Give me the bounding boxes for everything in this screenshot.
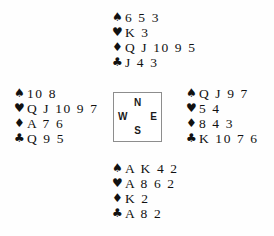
hand-east-clubs-ranks: K 10 7 6: [199, 131, 259, 146]
hand-west-diamonds-row: ♦ A 7 6: [14, 116, 99, 131]
hand-north: ♠ 6 5 3 ♥ K 3 ♦ Q J 10 9 5 ♣ J 4 3: [112, 10, 197, 70]
hand-east-diamonds-row: ♦ 8 4 3: [186, 116, 259, 131]
hand-south-clubs-row: ♣ A 8 2: [112, 206, 179, 221]
hand-south-hearts-row: ♥ A 8 6 2: [112, 176, 179, 191]
hand-west-spades-ranks: 10 8: [27, 86, 57, 101]
hand-north-spades-ranks: 6 5 3: [125, 10, 160, 25]
club-icon: ♣: [112, 206, 125, 221]
hand-east-clubs-row: ♣ K 10 7 6: [186, 131, 259, 146]
club-icon: ♣: [112, 55, 125, 70]
diamond-icon: ♦: [14, 116, 27, 131]
heart-icon: ♥: [186, 101, 199, 116]
spade-icon: ♠: [14, 86, 27, 101]
club-icon: ♣: [14, 131, 27, 146]
hand-south-hearts-ranks: A 8 6 2: [125, 176, 176, 191]
hand-west: ♠ 10 8 ♥ Q J 10 9 7 ♦ A 7 6 ♣ Q 9 5: [14, 86, 99, 146]
hand-east: ♠ Q J 9 7 ♥ 5 4 ♦ 8 4 3 ♣ K 10 7 6: [186, 86, 259, 146]
hand-west-clubs-ranks: Q 9 5: [27, 131, 65, 146]
compass-box: N W E S: [113, 92, 162, 142]
hand-east-spades-row: ♠ Q J 9 7: [186, 86, 259, 101]
hand-east-hearts-ranks: 5 4: [199, 101, 221, 116]
hand-east-hearts-row: ♥ 5 4: [186, 101, 259, 116]
diamond-icon: ♦: [112, 191, 125, 206]
hand-north-diamonds-ranks: Q J 10 9 5: [125, 40, 197, 55]
hand-south-spades-ranks: A K 4 2: [125, 161, 179, 176]
hand-north-hearts-row: ♥ K 3: [112, 25, 197, 40]
bridge-deal-diagram: ♠ 6 5 3 ♥ K 3 ♦ Q J 10 9 5 ♣ J 4 3 ♠ 10 …: [0, 0, 274, 236]
hand-south-spades-row: ♠ A K 4 2: [112, 161, 179, 176]
hand-south-diamonds-row: ♦ K 2: [112, 191, 179, 206]
hand-west-spades-row: ♠ 10 8: [14, 86, 99, 101]
diamond-icon: ♦: [112, 40, 125, 55]
hand-west-diamonds-ranks: A 7 6: [27, 116, 64, 131]
hand-south-clubs-ranks: A 8 2: [125, 206, 162, 221]
hand-east-spades-ranks: Q J 9 7: [199, 86, 249, 101]
hand-south-diamonds-ranks: K 2: [125, 191, 150, 206]
hand-north-hearts-ranks: K 3: [125, 25, 150, 40]
hand-north-clubs-row: ♣ J 4 3: [112, 55, 197, 70]
club-icon: ♣: [186, 131, 199, 146]
heart-icon: ♥: [14, 101, 27, 116]
hand-north-spades-row: ♠ 6 5 3: [112, 10, 197, 25]
hand-south: ♠ A K 4 2 ♥ A 8 6 2 ♦ K 2 ♣ A 8 2: [112, 161, 179, 221]
spade-icon: ♠: [112, 10, 125, 25]
hand-west-hearts-row: ♥ Q J 10 9 7: [14, 101, 99, 116]
hand-west-clubs-row: ♣ Q 9 5: [14, 131, 99, 146]
diamond-icon: ♦: [186, 116, 199, 131]
compass-south-label: S: [114, 126, 161, 136]
heart-icon: ♥: [112, 25, 125, 40]
hand-north-clubs-ranks: J 4 3: [125, 55, 159, 70]
hand-east-diamonds-ranks: 8 4 3: [199, 116, 234, 131]
heart-icon: ♥: [112, 176, 125, 191]
spade-icon: ♠: [186, 86, 199, 101]
hand-west-hearts-ranks: Q J 10 9 7: [27, 101, 99, 116]
spade-icon: ♠: [112, 161, 125, 176]
hand-north-diamonds-row: ♦ Q J 10 9 5: [112, 40, 197, 55]
